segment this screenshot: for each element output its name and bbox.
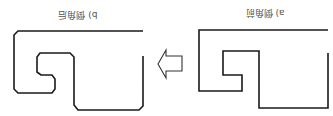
- cut-off-caption: [110, 0, 230, 2]
- shape-before-chamfer: [199, 30, 328, 108]
- arrow-left-icon: [158, 50, 182, 78]
- label-before-chamfer: a) 倒角前: [242, 8, 288, 18]
- label-after-chamfer: b) 倒角后: [55, 10, 101, 20]
- shape-after-chamfer: [14, 31, 143, 110]
